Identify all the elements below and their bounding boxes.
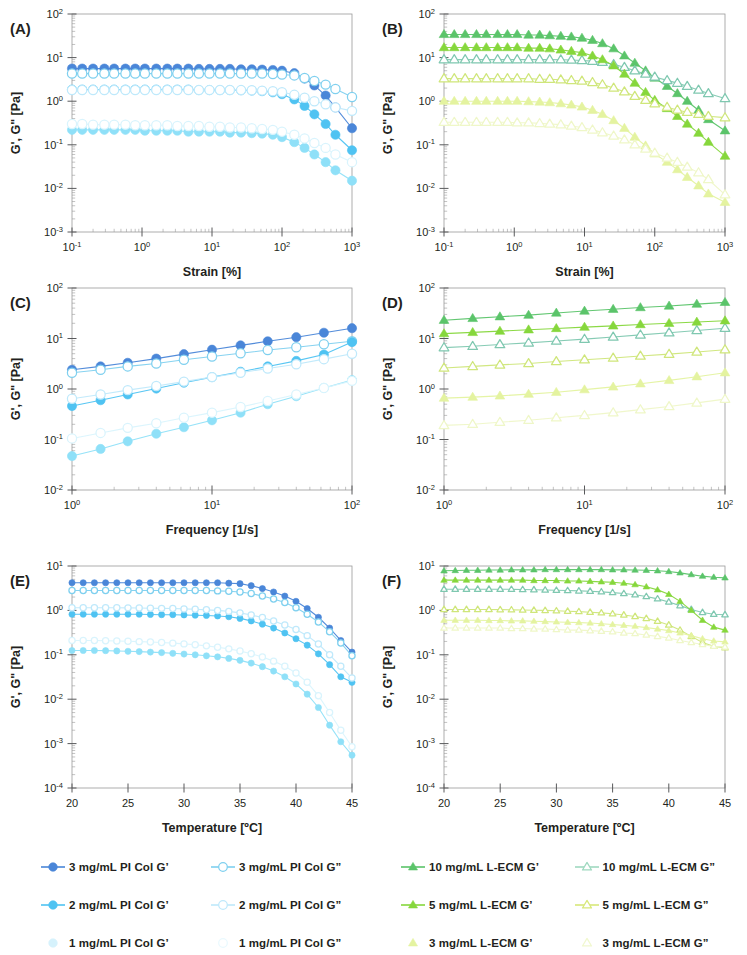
svg-text:30: 30 [178,797,190,809]
series-E-4 [69,647,355,758]
panel-B: 10-310-210-110010110210-1100101102103(B)… [372,0,747,278]
series-B-5 [439,117,730,197]
svg-text:10-1: 10-1 [44,137,63,151]
panel-F-plot: 10-410-310-210-1100101202530354045(F)Tem… [372,552,747,842]
panel-C: 10-210-1100101102100101102(C)Frequency [… [0,278,372,552]
svg-text:102: 102 [274,240,290,254]
panel-letter-F: (F) [382,572,401,589]
series-A-5 [67,119,356,166]
svg-text:10-4: 10-4 [416,781,435,795]
x-axis-title-D: Frequency [1/s] [538,523,630,537]
svg-text:100: 100 [134,240,150,254]
series-D-5 [439,394,730,428]
svg-text:102: 102 [47,281,63,295]
panel-A-plot: 10-310-210-110010110210-1100101102103(A)… [0,0,372,278]
panel-F: 10-410-310-210-1100101202530354045(F)Tem… [372,552,747,842]
svg-text:100: 100 [419,382,435,396]
svg-text:10-2: 10-2 [416,483,435,497]
triangle-marker-icon [574,936,600,950]
svg-text:10-4: 10-4 [44,781,63,795]
svg-text:10-2: 10-2 [44,483,63,497]
svg-text:10-1: 10-1 [44,647,63,661]
legend-row: 2 mg/mL PI Col G’2 mg/mL PI Col G” [40,886,380,924]
legend-label: 10 mg/mL L-ECM G” [603,861,716,873]
x-axis-title-F: Temperature [ºC] [534,821,634,835]
svg-text:100: 100 [436,498,452,512]
series-C-5 [67,376,356,443]
svg-text:101: 101 [419,331,435,345]
circle-marker-icon [40,860,66,874]
svg-text:10-1: 10-1 [63,240,82,254]
svg-text:40: 40 [290,797,302,809]
legend-label: 3 mg/mL PI Col G” [239,861,341,873]
legend-right: 10 mg/mL L-ECM G’10 mg/mL L-ECM G”5 mg/m… [400,848,747,955]
legend-label: 2 mg/mL PI Col G’ [69,899,169,911]
svg-text:102: 102 [344,498,360,512]
x-axis-title-C: Frequency [1/s] [166,523,258,537]
series-E-2 [69,611,355,685]
legend-item-left-2-1: 1 mg/mL PI Col G” [210,936,380,950]
legend-label: 5 mg/mL L-ECM G” [603,899,709,911]
plot-frame [444,566,725,788]
y-axis-title-C: G', G" [Pa] [9,358,23,420]
svg-text:45: 45 [719,797,731,809]
svg-text:35: 35 [234,797,246,809]
series-E-5 [69,637,355,749]
panel-letter-D: (D) [382,294,403,311]
svg-text:10-1: 10-1 [416,432,435,446]
y-axis-title-D: G', G" [Pa] [381,358,395,420]
legend-label: 1 mg/mL PI Col G” [239,937,341,949]
svg-text:101: 101 [419,50,435,64]
series-E-1 [69,587,355,658]
legend-row: 5 mg/mL L-ECM G’5 mg/mL L-ECM G” [400,886,747,924]
svg-text:101: 101 [576,240,592,254]
svg-text:103: 103 [344,240,360,254]
series-A-4 [67,125,356,185]
svg-text:10-3: 10-3 [44,225,63,239]
panel-D-plot: 10-210-1100101102100101102(D)Frequency [… [372,278,747,552]
series-F-2 [441,577,729,632]
legend-item-left-2-0: 1 mg/mL PI Col G’ [40,936,210,950]
svg-text:101: 101 [204,498,220,512]
svg-text:35: 35 [606,797,618,809]
y-axis-title-E: G', G" [Pa] [9,646,23,708]
panel-letter-B: (B) [382,20,403,37]
series-B-3 [439,74,730,121]
panel-A: 10-310-210-110010110210-1100101102103(A)… [0,0,372,278]
svg-text:100: 100 [419,94,435,108]
svg-text:25: 25 [122,797,134,809]
legend-left: 3 mg/mL PI Col G’3 mg/mL PI Col G”2 mg/m… [40,848,380,955]
svg-text:101: 101 [419,559,435,573]
svg-text:103: 103 [717,240,733,254]
circle-marker-icon [210,898,236,912]
svg-text:10-2: 10-2 [44,181,63,195]
legend-item-right-1-0: 5 mg/mL L-ECM G’ [400,898,574,912]
panel-letter-A: (A) [10,20,31,37]
svg-text:100: 100 [47,382,63,396]
legend-row: 3 mg/mL PI Col G’3 mg/mL PI Col G” [40,848,380,886]
svg-text:25: 25 [494,797,506,809]
panel-D: 10-210-1100101102100101102(D)Frequency [… [372,278,747,552]
triangle-marker-icon [400,860,426,874]
svg-text:102: 102 [419,7,435,21]
legend-item-left-0-0: 3 mg/mL PI Col G’ [40,860,210,874]
legend-item-right-0-1: 10 mg/mL L-ECM G” [574,860,747,874]
panel-C-plot: 10-210-1100101102100101102(C)Frequency [… [0,278,372,552]
legend-label: 3 mg/mL L-ECM G” [603,937,709,949]
triangle-marker-icon [574,860,600,874]
circle-marker-icon [40,936,66,950]
legend-label: 10 mg/mL L-ECM G’ [429,861,539,873]
svg-text:102: 102 [717,498,733,512]
plot-frame [72,566,352,788]
svg-text:101: 101 [47,331,63,345]
circle-marker-icon [210,860,236,874]
svg-text:45: 45 [346,797,358,809]
legend-label: 2 mg/mL PI Col G” [239,899,341,911]
panel-letter-C: (C) [10,294,31,311]
svg-text:10-1: 10-1 [416,137,435,151]
legend-row: 10 mg/mL L-ECM G’10 mg/mL L-ECM G” [400,848,747,886]
triangle-marker-icon [400,898,426,912]
x-axis-title-A: Strain [%] [183,265,241,279]
plot-frame [72,288,352,490]
legend-label: 1 mg/mL PI Col G’ [69,937,169,949]
